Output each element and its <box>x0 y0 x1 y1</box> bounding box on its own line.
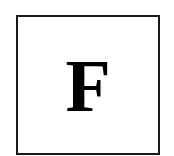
letter-tile: F <box>16 15 160 155</box>
letter-glyph: F <box>18 17 158 153</box>
